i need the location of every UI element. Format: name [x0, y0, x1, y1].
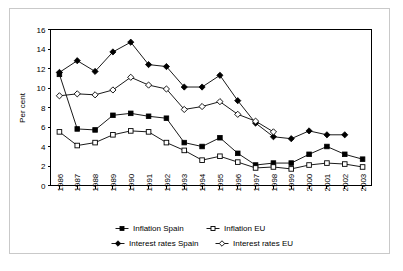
data-point-filled-diamond-icon [199, 84, 205, 90]
data-point-open-diamond-icon [92, 92, 98, 98]
y-tick-label: 10 [37, 84, 46, 93]
y-axis-ticks: 0246810121416 [37, 26, 51, 191]
data-point-open-square-icon [128, 129, 133, 134]
legend-item-label: Inflation EU [224, 224, 266, 233]
x-axis-ticks: 1986198719881989199019911992199319941995… [56, 173, 368, 191]
data-point-open-square-icon [111, 133, 116, 138]
data-point-open-diamond-icon [128, 74, 134, 80]
legend-item-label: Interest rates Spain [129, 239, 198, 248]
data-point-open-square-icon [253, 166, 258, 171]
y-tick-label: 12 [37, 65, 46, 74]
data-point-open-diamond-icon [219, 241, 224, 246]
data-point-open-square-icon [235, 160, 240, 165]
chart-legend: Inflation SpainInflation EUInterest rate… [112, 224, 294, 248]
data-point-filled-square-icon [360, 157, 365, 162]
data-point-open-diamond-icon [110, 87, 116, 93]
series-line [59, 131, 362, 169]
x-tick-label: 2001 [323, 173, 332, 191]
data-point-open-square-icon [289, 167, 294, 172]
data-point-open-square-icon [218, 154, 223, 159]
data-point-filled-square-icon [164, 116, 169, 121]
data-point-open-diamond-icon [199, 103, 205, 109]
y-tick-label: 4 [41, 143, 46, 152]
data-point-filled-square-icon [128, 111, 133, 116]
data-point-filled-square-icon [182, 140, 187, 145]
series-markers-group [56, 39, 365, 171]
x-tick-label: 1987 [73, 173, 82, 191]
y-axis-title: Per cent [18, 92, 27, 123]
data-point-filled-diamond-icon [115, 241, 120, 246]
data-point-open-square-icon [182, 148, 187, 153]
y-axis-label: Per cent [18, 92, 27, 123]
x-tick-label: 1993 [180, 173, 189, 191]
x-tick-label: 1989 [109, 173, 118, 191]
x-tick-label: 1998 [270, 173, 279, 191]
data-point-open-square-icon [57, 130, 62, 135]
data-point-open-square-icon [360, 165, 365, 170]
data-point-open-diamond-icon [270, 129, 276, 135]
data-point-open-square-icon [307, 163, 312, 168]
data-point-filled-square-icon [93, 128, 98, 133]
series-lines-group [59, 42, 362, 169]
data-point-filled-diamond-icon [74, 58, 80, 64]
data-point-open-square-icon [211, 226, 215, 230]
data-point-open-square-icon [325, 161, 330, 166]
data-point-filled-square-icon [218, 135, 223, 140]
data-point-open-diamond-icon [74, 91, 80, 97]
data-point-filled-diamond-icon [324, 132, 330, 138]
data-point-filled-diamond-icon [306, 128, 312, 134]
x-tick-label: 1995 [216, 173, 225, 191]
data-point-open-diamond-icon [217, 99, 223, 105]
data-point-open-diamond-icon [56, 93, 62, 99]
data-point-open-square-icon [271, 165, 276, 170]
data-point-open-square-icon [75, 143, 80, 148]
x-tick-label: 1997 [252, 173, 261, 191]
data-point-filled-square-icon [325, 144, 330, 149]
data-point-open-square-icon [342, 162, 347, 167]
x-tick-label: 1986 [56, 173, 65, 191]
x-tick-label: 1991 [145, 173, 154, 191]
x-tick-label: 1990 [127, 173, 136, 191]
data-point-filled-square-icon [307, 152, 312, 157]
data-point-filled-square-icon [75, 127, 80, 132]
data-point-filled-square-icon [200, 144, 205, 149]
y-tick-label: 2 [41, 162, 46, 171]
x-tick-label: 1988 [91, 173, 100, 191]
line-chart: Per cent 0246810121416 19861987198819891… [0, 0, 403, 271]
y-tick-label: 8 [41, 104, 46, 113]
x-tick-label: 1994 [198, 173, 207, 191]
x-tick-label: 1999 [287, 173, 296, 191]
data-point-filled-diamond-icon [217, 72, 223, 78]
data-point-open-diamond-icon [235, 111, 241, 117]
legend-item-label: Interest rates EU [233, 239, 293, 248]
x-tick-label: 2003 [359, 173, 368, 191]
plot-axes [51, 30, 372, 186]
data-point-open-square-icon [93, 140, 98, 145]
data-point-filled-square-icon [342, 152, 347, 157]
series-line [59, 74, 362, 165]
x-tick-label: 1992 [163, 173, 172, 191]
data-point-filled-square-icon [289, 161, 294, 166]
x-tick-label: 2000 [305, 173, 314, 191]
y-tick-label: 6 [41, 123, 46, 132]
data-point-open-square-icon [146, 130, 151, 135]
data-point-filled-square-icon [120, 226, 124, 230]
data-point-filled-square-icon [146, 114, 151, 119]
data-point-open-diamond-icon [145, 82, 151, 88]
data-point-open-square-icon [164, 140, 169, 145]
data-point-filled-square-icon [235, 151, 240, 156]
data-point-filled-diamond-icon [288, 136, 294, 142]
data-point-filled-diamond-icon [342, 132, 348, 138]
x-tick-label: 1996 [234, 173, 243, 191]
data-point-open-square-icon [200, 158, 205, 163]
y-tick-label: 0 [41, 182, 46, 191]
chart-figure: Per cent 0246810121416 19861987198819891… [0, 0, 403, 271]
x-tick-label: 2002 [341, 173, 350, 191]
y-tick-label: 16 [37, 26, 46, 35]
data-point-filled-square-icon [111, 113, 116, 118]
legend-item-label: Inflation Spain [133, 224, 184, 233]
y-tick-label: 14 [37, 45, 46, 54]
